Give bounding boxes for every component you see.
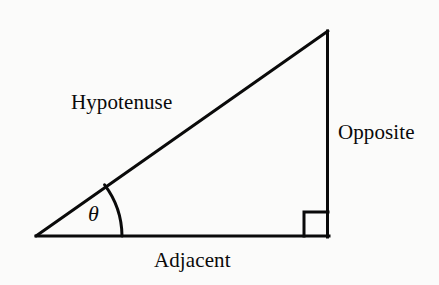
hypotenuse-side-line	[36, 31, 328, 236]
angle-arc	[105, 185, 122, 236]
adjacent-label: Adjacent	[154, 250, 231, 271]
right-angle-marker-icon	[304, 212, 328, 236]
theta-angle-label: θ	[88, 203, 99, 225]
triangle-diagram: Hypotenuse Opposite Adjacent θ	[0, 0, 439, 285]
opposite-label: Opposite	[338, 122, 415, 143]
hypotenuse-label: Hypotenuse	[71, 92, 172, 113]
